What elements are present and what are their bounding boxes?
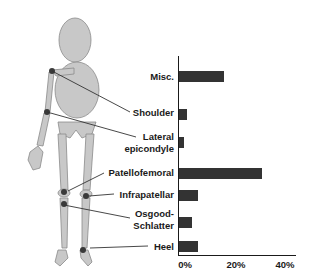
bar-shoulder bbox=[179, 109, 187, 120]
bar-osgood-schlatter bbox=[179, 217, 192, 228]
bar-patellofemoral bbox=[179, 168, 262, 179]
x-axis-line bbox=[178, 255, 296, 256]
label-lateral-line1: Lateral bbox=[143, 131, 174, 142]
bar-heel bbox=[179, 241, 198, 252]
bar-misc bbox=[179, 71, 224, 82]
label-osgood-line2: Schlatter bbox=[133, 220, 174, 231]
label-shoulder: Shoulder bbox=[133, 107, 174, 118]
bar-infrapatellar bbox=[179, 190, 198, 201]
x-tick-0: 0% bbox=[178, 259, 192, 270]
label-lateral-line2: epicondyle bbox=[124, 143, 174, 154]
label-osgood-line1: Osgood- bbox=[135, 208, 174, 219]
x-tick-40: 40% bbox=[275, 259, 294, 270]
label-infrapatellar: Infrapatellar bbox=[120, 189, 174, 200]
x-tick-20: 20% bbox=[226, 259, 245, 270]
label-heel: Heel bbox=[154, 241, 174, 252]
label-misc: Misc. bbox=[150, 71, 174, 82]
bar-lateral-epicondyle bbox=[179, 137, 184, 148]
label-patellofemoral: Patellofemoral bbox=[109, 167, 174, 178]
skeleton-chart-figure: Misc. Shoulder Lateral epicondyle Patell… bbox=[0, 0, 336, 278]
